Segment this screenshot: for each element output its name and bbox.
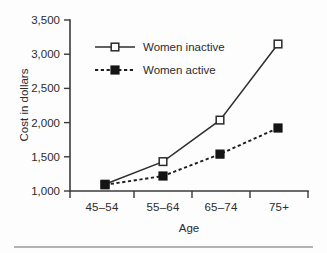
legend-marker-open-square xyxy=(111,43,119,51)
chart-legend: Women inactive Women active xyxy=(95,41,225,76)
series-line-women-active xyxy=(105,128,278,185)
y-tick-label-2000: 2,000 xyxy=(31,117,60,129)
data-point-inactive-2 xyxy=(216,116,224,124)
data-point-active-3 xyxy=(274,124,282,132)
y-tick-labels: 3,500 3,000 2,500 2,000 1,500 1,000 xyxy=(31,14,60,197)
y-tick-label-3500: 3,500 xyxy=(31,14,60,26)
x-tick-label-1: 55–64 xyxy=(147,201,180,213)
legend-label-women-inactive: Women inactive xyxy=(143,41,225,53)
x-tick-label-2: 65–74 xyxy=(205,201,238,213)
x-tick-labels: 45–54 55–64 65–74 75+ xyxy=(86,201,290,213)
y-tick-label-1000: 1,000 xyxy=(31,185,60,197)
chart-figure: 3,500 3,000 2,500 2,000 1,500 1,000 45–5… xyxy=(0,0,327,253)
legend-label-women-active: Women active xyxy=(143,64,216,76)
line-chart: 3,500 3,000 2,500 2,000 1,500 1,000 45–5… xyxy=(0,0,327,253)
x-tick-label-3: 75+ xyxy=(269,201,289,213)
x-tick-label-0: 45–54 xyxy=(86,201,119,213)
x-axis-title: Age xyxy=(179,222,199,234)
y-tick-label-3000: 3,000 xyxy=(31,48,60,60)
legend-item-women-active: Women active xyxy=(95,64,216,76)
y-axis-title: Cost in dollars xyxy=(18,68,30,141)
data-point-active-2 xyxy=(216,150,224,158)
data-point-active-0 xyxy=(101,181,109,189)
y-tick-label-2500: 2,500 xyxy=(31,82,60,94)
series-women-active xyxy=(101,124,282,189)
data-point-active-1 xyxy=(159,172,167,180)
data-point-inactive-1 xyxy=(159,158,167,166)
y-tick-label-1500: 1,500 xyxy=(31,151,60,163)
legend-item-women-inactive: Women inactive xyxy=(95,41,225,53)
legend-marker-filled-square xyxy=(111,66,119,74)
data-point-inactive-3 xyxy=(274,40,282,48)
